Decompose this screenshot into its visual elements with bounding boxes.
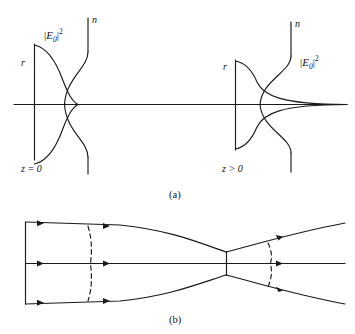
intensity-subscript: 0 [53,35,57,44]
panel-b-upper-ray [26,222,227,252]
arrowhead-center-3 [276,261,283,267]
arrowhead-lower-2 [103,298,110,304]
arrowhead-upper-2 [103,223,110,229]
panel-b-lower-ray [26,275,227,304]
arrowhead-upper-1 [37,220,44,226]
intensity-field-symbol: E [46,29,53,41]
figure-drawing [0,0,355,334]
figure-container: r n |E0|2 z = 0 r n |E0|2 z > 0 (a) (b) [0,0,355,334]
panel-a-left-n-label: n [92,15,97,25]
intensity-field-symbol: E [302,56,309,68]
panel-a-right-r-label: r [223,62,227,72]
panel-a-caption: (a) [169,190,181,201]
panel-a-left-intensity-label: |E0|2 [44,30,63,41]
panel-a-right-z-label: z > 0 [222,164,243,174]
panel-a-right-intensity-label: |E0|2 [300,57,319,68]
intensity-exponent: 2 [59,27,63,36]
arrowhead-center-1 [37,261,44,267]
panel-b-wavefront-right [268,243,271,287]
panel-b-caption: (b) [169,315,181,326]
intensity-exponent: 2 [315,54,319,63]
panel-b-upper-ray-after-waist [226,223,345,252]
panel-a-left-z-label: z = 0 [21,164,42,174]
arrowhead-lower-1 [37,300,44,306]
panel-b-lower-ray-after-waist [226,275,345,304]
panel-a-right-n-label: n [295,19,300,29]
intensity-subscript: 0 [309,62,313,71]
panel-a-left-r-label: r [21,58,25,68]
arrowhead-center-2 [103,261,110,267]
